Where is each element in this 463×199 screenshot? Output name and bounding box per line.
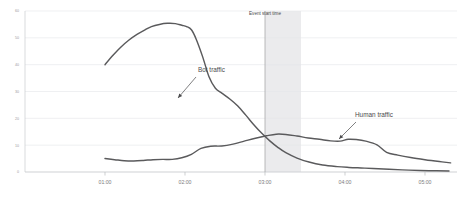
- x-tick-label: 02:00: [179, 179, 192, 185]
- chart-canvas: 0102030405060 01:0002:0003:0004:0005:00 …: [0, 0, 463, 199]
- y-tick-label: 40: [15, 63, 19, 67]
- y-tick-label: 50: [15, 36, 19, 40]
- y-tick-label: 20: [15, 117, 19, 121]
- human-traffic-callout-label: Human traffic: [355, 111, 394, 118]
- bot-traffic-callout-label: Bot traffic: [198, 66, 226, 73]
- y-tick-label: 60: [15, 9, 19, 13]
- y-tick-label: 0: [17, 170, 19, 174]
- event-start-label: Event start time: [249, 11, 281, 16]
- y-tick-label: 30: [15, 90, 19, 94]
- y-tick-label: 10: [15, 144, 19, 148]
- x-tick-label: 04:00: [339, 179, 352, 185]
- x-tick-label: 01:00: [99, 179, 112, 185]
- x-tick-label: 03:00: [259, 179, 272, 185]
- x-tick-label: 05:00: [419, 179, 432, 185]
- traffic-line-chart: 0102030405060 01:0002:0003:0004:0005:00 …: [0, 0, 463, 199]
